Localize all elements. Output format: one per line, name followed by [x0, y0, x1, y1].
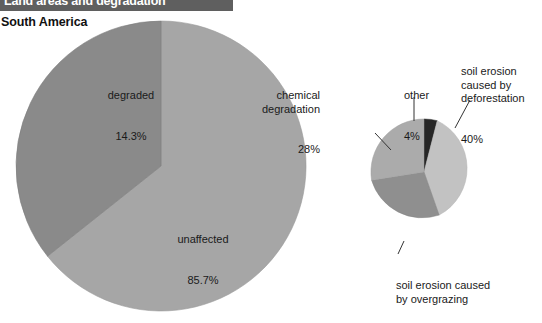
pie-label-other: other 4% [404, 62, 452, 170]
pie-label-deforestation-name: soil erosion caused by deforestation [461, 65, 542, 106]
figure-canvas: Land areas and degradation South America [0, 0, 542, 323]
pie-label-degraded-name: degraded [88, 89, 174, 103]
pie-label-deforestation-value: 40% [461, 133, 542, 147]
pie-label-degraded: degraded 14.3% [88, 62, 174, 170]
pie-label-overgrazing-name: soil erosion caused by overgrazing [396, 279, 532, 306]
pie-label-other-name: other [404, 89, 452, 103]
pie-label-degraded-value: 14.3% [88, 130, 174, 144]
pie-label-unaffected-name: unaffected [155, 233, 251, 247]
pie-label-chemical-degradation: chemical degradation 28% [210, 62, 320, 184]
pie-label-chemical-degradation-value: 28% [210, 143, 320, 157]
pie-label-deforestation: soil erosion caused by deforestation 40% [461, 38, 542, 173]
pie-label-unaffected: unaffected 85.7% [155, 206, 251, 314]
pie-label-chemical-degradation-name: chemical degradation [210, 89, 320, 116]
pie-label-other-value: 4% [404, 130, 452, 144]
pie-label-unaffected-value: 85.7% [155, 274, 251, 288]
pie-label-overgrazing: soil erosion caused by overgrazing 28% [396, 252, 532, 323]
